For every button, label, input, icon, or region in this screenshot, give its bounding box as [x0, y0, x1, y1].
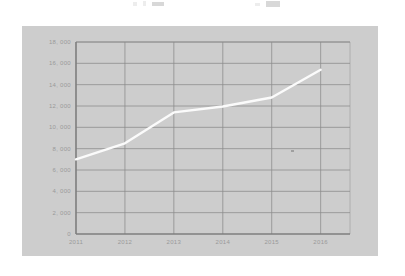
chart-series-line — [76, 42, 350, 234]
y-tick-label: 16, 000 — [49, 60, 71, 66]
scan-artifact — [152, 2, 164, 6]
scan-artifact — [133, 2, 137, 6]
y-tick-label: 8, 000 — [53, 146, 71, 152]
x-tick-label: 2014 — [216, 239, 231, 245]
chart-panel: 02, 0004, 0006, 0008, 00010, 00012, 0001… — [22, 26, 378, 256]
y-tick-label: 6, 000 — [53, 167, 71, 173]
y-tick-label: 18, 000 — [49, 39, 71, 45]
top-scan-artifacts — [0, 0, 405, 10]
x-tick-label: 2015 — [264, 239, 279, 245]
y-tick-label: 10, 000 — [49, 124, 71, 130]
x-tick-label: 2016 — [313, 239, 328, 245]
scan-artifact — [143, 1, 146, 6]
y-tick-label: 4, 000 — [53, 188, 71, 194]
x-tick-label: 2013 — [167, 239, 182, 245]
y-tick-label: 12, 000 — [49, 103, 71, 109]
y-tick-label: 14, 000 — [49, 82, 71, 88]
y-tick-label: 2, 000 — [53, 210, 71, 216]
x-tick-label: 2011 — [69, 239, 83, 245]
plot-area: 02, 0004, 0006, 0008, 00010, 00012, 0001… — [76, 42, 350, 234]
scan-artifact — [266, 1, 280, 7]
y-tick-label: 0 — [67, 231, 71, 237]
x-tick-label: 2012 — [118, 239, 133, 245]
scan-speck — [291, 150, 294, 152]
scan-artifact — [255, 3, 260, 6]
